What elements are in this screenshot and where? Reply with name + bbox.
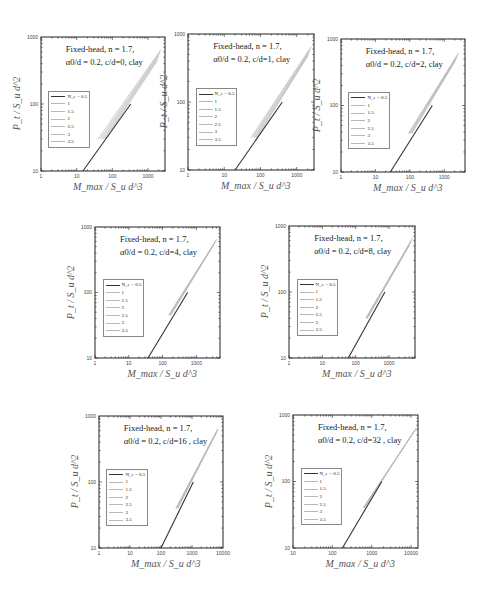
x-tick-label: 10000 (216, 550, 230, 556)
series-line-3_5 (257, 56, 308, 137)
y-axis-label: P_t / S_u d^2 (259, 257, 270, 327)
legend-swatch (304, 511, 318, 512)
y-tick-label: 1000 (279, 412, 290, 418)
legend-item: 1 (351, 102, 387, 110)
series-line-0_5 (148, 293, 188, 359)
chart-panel-cd0: 1101001000101001000Fixed-head, n = 1.7,α… (41, 37, 165, 171)
legend-swatch (109, 512, 123, 513)
legend-swatch (106, 315, 120, 316)
legend-swatch (300, 284, 314, 285)
chart-annotation: Fixed-head, n = 1.7,α0/d = 0.2, c/d=0, c… (66, 43, 143, 69)
y-tick-label: 1000 (27, 34, 38, 40)
legend-item: N_e = 0.5 (199, 90, 235, 98)
legend-swatch (51, 126, 65, 127)
legend-label: 1 (125, 478, 128, 486)
legend-swatch (351, 135, 365, 136)
legend-swatch (351, 128, 365, 129)
legend-swatch (351, 105, 365, 106)
legend-label: 1.5 (122, 297, 128, 305)
legend-item: 3 (199, 128, 235, 136)
legend-swatch (199, 139, 213, 140)
x-tick-label: 10 (127, 550, 133, 556)
legend-swatch (199, 101, 213, 102)
legend-swatch (300, 322, 314, 323)
legend-item: 1 (109, 478, 145, 486)
annotation-line-1: Fixed-head, n = 1.7, (314, 232, 391, 245)
y-tick-label: 100 (278, 289, 287, 295)
legend-swatch (351, 120, 365, 121)
legend-label: 3.5 (125, 516, 131, 524)
legend-label: N_e = 0.5 (125, 471, 145, 479)
legend-swatch (304, 481, 318, 482)
annotation-line-2: α0/d = 0.2, c/d=16 , clay (124, 435, 207, 448)
annotation-line-2: α0/d = 0.2, c/d=4, clay (120, 246, 197, 259)
y-tick-label: 100 (30, 101, 39, 107)
legend-swatch (109, 504, 123, 505)
legend-item: 3 (109, 509, 145, 517)
legend-label: 3.5 (122, 327, 128, 335)
legend-swatch (109, 482, 123, 483)
legend-swatch (51, 96, 65, 97)
x-tick-label: 100 (406, 174, 415, 180)
chart-panel-cd4: 1101001000101001000Fixed-head, n = 1.7,α… (95, 227, 220, 358)
legend-item: 1.5 (51, 108, 87, 116)
legend-item: 1.5 (300, 296, 336, 304)
y-tick-label: 10 (90, 545, 96, 551)
y-tick-label: 10 (32, 168, 38, 174)
annotation-line-2: α0/d = 0.2, c/d=8, clay (314, 245, 391, 258)
x-tick-label: 1000 (383, 360, 394, 366)
legend-swatch (300, 314, 314, 315)
legend-label: 1.5 (215, 106, 221, 114)
x-axis-label: M_max / S_u d^3 (131, 558, 201, 569)
legend-item: 2 (199, 113, 235, 121)
x-tick-label: 100 (158, 360, 167, 366)
legend-item: 3.5 (351, 140, 387, 148)
legend-swatch (51, 134, 65, 135)
legend-item: 2.5 (300, 311, 336, 319)
legend-label: 2 (122, 304, 125, 312)
annotation-line-1: Fixed-head, n = 1.7, (213, 40, 290, 53)
legend-item: 1 (300, 288, 336, 296)
legend-item: 3.5 (51, 138, 87, 146)
annotation-line-1: Fixed-head, n = 1.7, (366, 45, 443, 58)
chart-panel-cd2: 1101001000101001000Fixed-head, n = 1.7,α… (341, 39, 465, 172)
y-tick-label: 1000 (85, 413, 96, 419)
legend-item: 1 (51, 100, 87, 108)
x-tick-label: 1000 (186, 550, 197, 556)
legend-label: N_e = 0.5 (215, 90, 235, 98)
legend-label: 3 (67, 131, 70, 139)
legend-label: N_e = 0.5 (316, 281, 336, 289)
legend-label: 2 (320, 493, 323, 501)
legend-item: N_e = 0.5 (351, 94, 387, 102)
y-axis-label: P_t / S_u d^2 (11, 69, 22, 139)
chart-legend: N_e = 0.511.522.533.5 (348, 92, 390, 149)
legend-swatch (109, 489, 123, 490)
legend-item: 3 (351, 132, 387, 140)
legend-item: 1 (106, 289, 142, 297)
annotation-line-1: Fixed-head, n = 1.7, (66, 43, 143, 56)
y-tick-label: 1000 (174, 31, 185, 37)
legend-item: 1 (199, 98, 235, 106)
x-tick-label: 10 (290, 550, 296, 556)
legend-label: 2 (215, 113, 218, 121)
legend-item: 1.5 (304, 485, 340, 493)
legend-label: 1.5 (367, 109, 373, 117)
x-tick-label: 1000 (191, 360, 202, 366)
legend-swatch (106, 300, 120, 301)
legend-item: N_e = 0.5 (109, 471, 145, 479)
chart-panel-cd32: 10100100010000101001000Fixed-head, n = 1… (293, 415, 418, 548)
legend-item: 1.5 (199, 106, 235, 114)
chart-annotation: Fixed-head, n = 1.7,α0/d = 0.2, c/d=2, c… (366, 45, 443, 71)
legend-swatch (106, 330, 120, 331)
annotation-line-1: Fixed-head, n = 1.7, (124, 422, 207, 435)
legend-item: 2.5 (106, 312, 142, 320)
series-line-0_5 (161, 482, 193, 548)
legend-swatch (300, 292, 314, 293)
legend-item: 3 (51, 131, 87, 139)
series-line-0_5 (348, 292, 385, 358)
legend-swatch (106, 307, 120, 308)
y-tick-label: 1000 (275, 223, 286, 229)
x-axis-label: M_max / S_u d^3 (322, 368, 392, 379)
x-axis-label: M_max / S_u d^3 (373, 182, 443, 193)
legend-label: N_e = 0.5 (320, 470, 340, 478)
